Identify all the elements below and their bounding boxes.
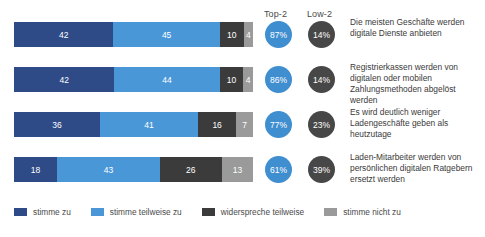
stacked-bar: 42 44 10 4 (14, 67, 253, 92)
stacked-bar: 42 45 10 4 (14, 22, 253, 47)
bar-segment-stimme-zu: 36 (14, 112, 100, 137)
statement-label: Die meisten Geschäfte werden digitale Di… (350, 17, 482, 39)
bar-segment-widerspreche-teilweise: 16 (198, 112, 236, 137)
bar-segment-widerspreche-teilweise: 26 (160, 157, 222, 182)
stacked-bar: 36 41 16 7 (14, 112, 253, 137)
legend-item: stimme teilweise zu (91, 207, 182, 217)
legend-item: stimme nicht zu (324, 207, 401, 217)
bar-segment-stimme-zu: 18 (14, 157, 57, 182)
bar-segment-stimme-teilweise-zu: 45 (113, 22, 219, 47)
chart-legend: stimme zu stimme teilweise zu widersprec… (14, 207, 421, 217)
stacked-bar: 18 43 26 13 (14, 157, 253, 182)
top2-badge: 61% (265, 156, 292, 183)
low2-badge: 23% (308, 111, 335, 138)
low2-badge: 14% (308, 21, 335, 48)
legend-swatch-icon (91, 208, 104, 216)
legend-item: stimme zu (14, 207, 71, 217)
chart-row: 42 45 10 4 87% 14% Die meisten Geschäfte… (0, 14, 485, 59)
bar-segment-stimme-nicht-zu: 13 (222, 157, 253, 182)
statement-label: Registrierkassen werden von digitalen od… (350, 62, 482, 106)
bar-segment-stimme-nicht-zu: 7 (236, 112, 253, 137)
legend-swatch-icon (14, 208, 27, 216)
legend-item-label: stimme zu (33, 207, 71, 217)
chart-row: 36 41 16 7 77% 23% Es wird deutlich weni… (0, 104, 485, 149)
top2-badge: 87% (265, 21, 292, 48)
low2-badge: 39% (308, 156, 335, 183)
low2-badge: 14% (308, 66, 335, 93)
bar-segment-stimme-teilweise-zu: 43 (57, 157, 160, 182)
statement-label: Es wird deutlich weniger Ladengeschäfte … (350, 107, 482, 140)
bar-segment-widerspreche-teilweise: 10 (220, 22, 244, 47)
legend-item-label: stimme nicht zu (343, 207, 401, 217)
bar-segment-stimme-zu: 42 (14, 67, 114, 92)
stacked-bar-chart: Top-2 Low-2 42 45 10 4 87% 14% Die meist… (0, 0, 485, 237)
chart-row: 18 43 26 13 61% 39% Laden-Mitarbeiter we… (0, 149, 485, 194)
legend-swatch-icon (202, 208, 215, 216)
bar-segment-stimme-nicht-zu: 4 (243, 67, 253, 92)
top2-badge: 86% (265, 66, 292, 93)
top2-badge: 77% (265, 111, 292, 138)
bar-segment-stimme-teilweise-zu: 44 (114, 67, 219, 92)
chart-row: 42 44 10 4 86% 14% Registrierkassen werd… (0, 59, 485, 104)
bar-segment-stimme-nicht-zu: 4 (244, 22, 253, 47)
bar-segment-widerspreche-teilweise: 10 (220, 67, 244, 92)
bar-segment-stimme-zu: 42 (14, 22, 113, 47)
legend-item-label: widerspreche teilweise (221, 207, 304, 217)
statement-label: Laden-Mitarbeiter werden von persönliche… (350, 152, 482, 185)
legend-item: widerspreche teilweise (202, 207, 304, 217)
bar-segment-stimme-teilweise-zu: 41 (100, 112, 198, 137)
legend-swatch-icon (324, 208, 337, 216)
legend-item-label: stimme teilweise zu (110, 207, 182, 217)
